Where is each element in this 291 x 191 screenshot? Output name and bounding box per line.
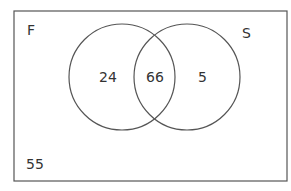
set-f-label: F	[27, 23, 35, 37]
s-only-value: 5	[198, 70, 207, 84]
intersection-value: 66	[146, 70, 164, 84]
outside-value: 55	[26, 157, 44, 171]
f-only-value: 24	[99, 70, 117, 84]
set-s-label: S	[242, 26, 251, 40]
